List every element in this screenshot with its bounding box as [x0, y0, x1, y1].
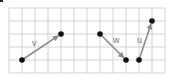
vector-label: u	[137, 35, 142, 45]
vector-label: w	[112, 35, 120, 45]
vector-arrow	[100, 34, 124, 58]
corner-mark	[0, 0, 3, 2]
vector-start-point	[136, 57, 142, 63]
vector-end-point	[58, 31, 64, 37]
vector-start-point	[19, 57, 25, 63]
vector-arrow	[22, 36, 58, 60]
vector-diagram: vwu	[0, 0, 169, 81]
vector-end-point	[123, 57, 129, 63]
vector-label: v	[32, 38, 37, 48]
vector-start-point	[97, 31, 103, 37]
vector-end-point	[149, 18, 155, 24]
